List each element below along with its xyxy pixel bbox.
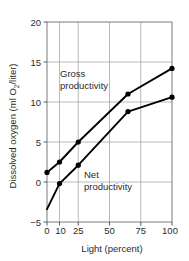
productivity-line-chart: 20 15 10 5 0 −5 0 10 25 50 75 100 Light …	[0, 0, 189, 261]
xtick-label-0: 0	[44, 225, 49, 236]
net-datapoint-100	[169, 95, 174, 100]
net-datapoint-25	[76, 163, 81, 168]
net-label-line1: Net	[84, 169, 99, 180]
gross-datapoint-65	[125, 91, 130, 96]
x-axis-title: Light (percent)	[81, 243, 142, 254]
chart-figure: 20 15 10 5 0 −5 0 10 25 50 75 100 Light …	[0, 0, 189, 261]
svg-text:Dissolved oxygen (ml O2/liter): Dissolved oxygen (ml O2/liter)	[7, 63, 20, 188]
ytick-label-5: 5	[36, 137, 41, 148]
gross-label-line2: productivity	[60, 80, 108, 91]
xtick-label-100: 100	[162, 225, 178, 236]
xtick-label-10: 10	[55, 225, 66, 236]
ytick-label-20: 20	[30, 17, 41, 28]
net-datapoint-10	[57, 181, 62, 186]
y-axis-title-main: Dissolved oxygen (ml O	[7, 88, 18, 188]
ytick-label-0: 0	[36, 177, 41, 188]
net-label-line2: productivity	[84, 181, 132, 192]
ytick-label-10: 10	[30, 97, 41, 108]
xtick-label-25: 25	[73, 225, 84, 236]
gross-datapoint-0	[44, 170, 49, 175]
ytick-label-15: 15	[30, 57, 41, 68]
gross-datapoint-10	[57, 159, 62, 164]
xtick-label-50: 50	[104, 225, 115, 236]
net-datapoint-65	[125, 109, 130, 114]
ytick-label-minus5: −5	[30, 217, 41, 228]
y-axis-title-end: /liter)	[7, 63, 18, 84]
y-axis-title: Dissolved oxygen (ml O2/liter)	[7, 63, 20, 188]
gross-datapoint-100	[169, 66, 174, 71]
gross-label-line1: Gross	[60, 68, 86, 79]
xtick-label-75: 75	[135, 225, 146, 236]
gross-datapoint-25	[76, 139, 81, 144]
